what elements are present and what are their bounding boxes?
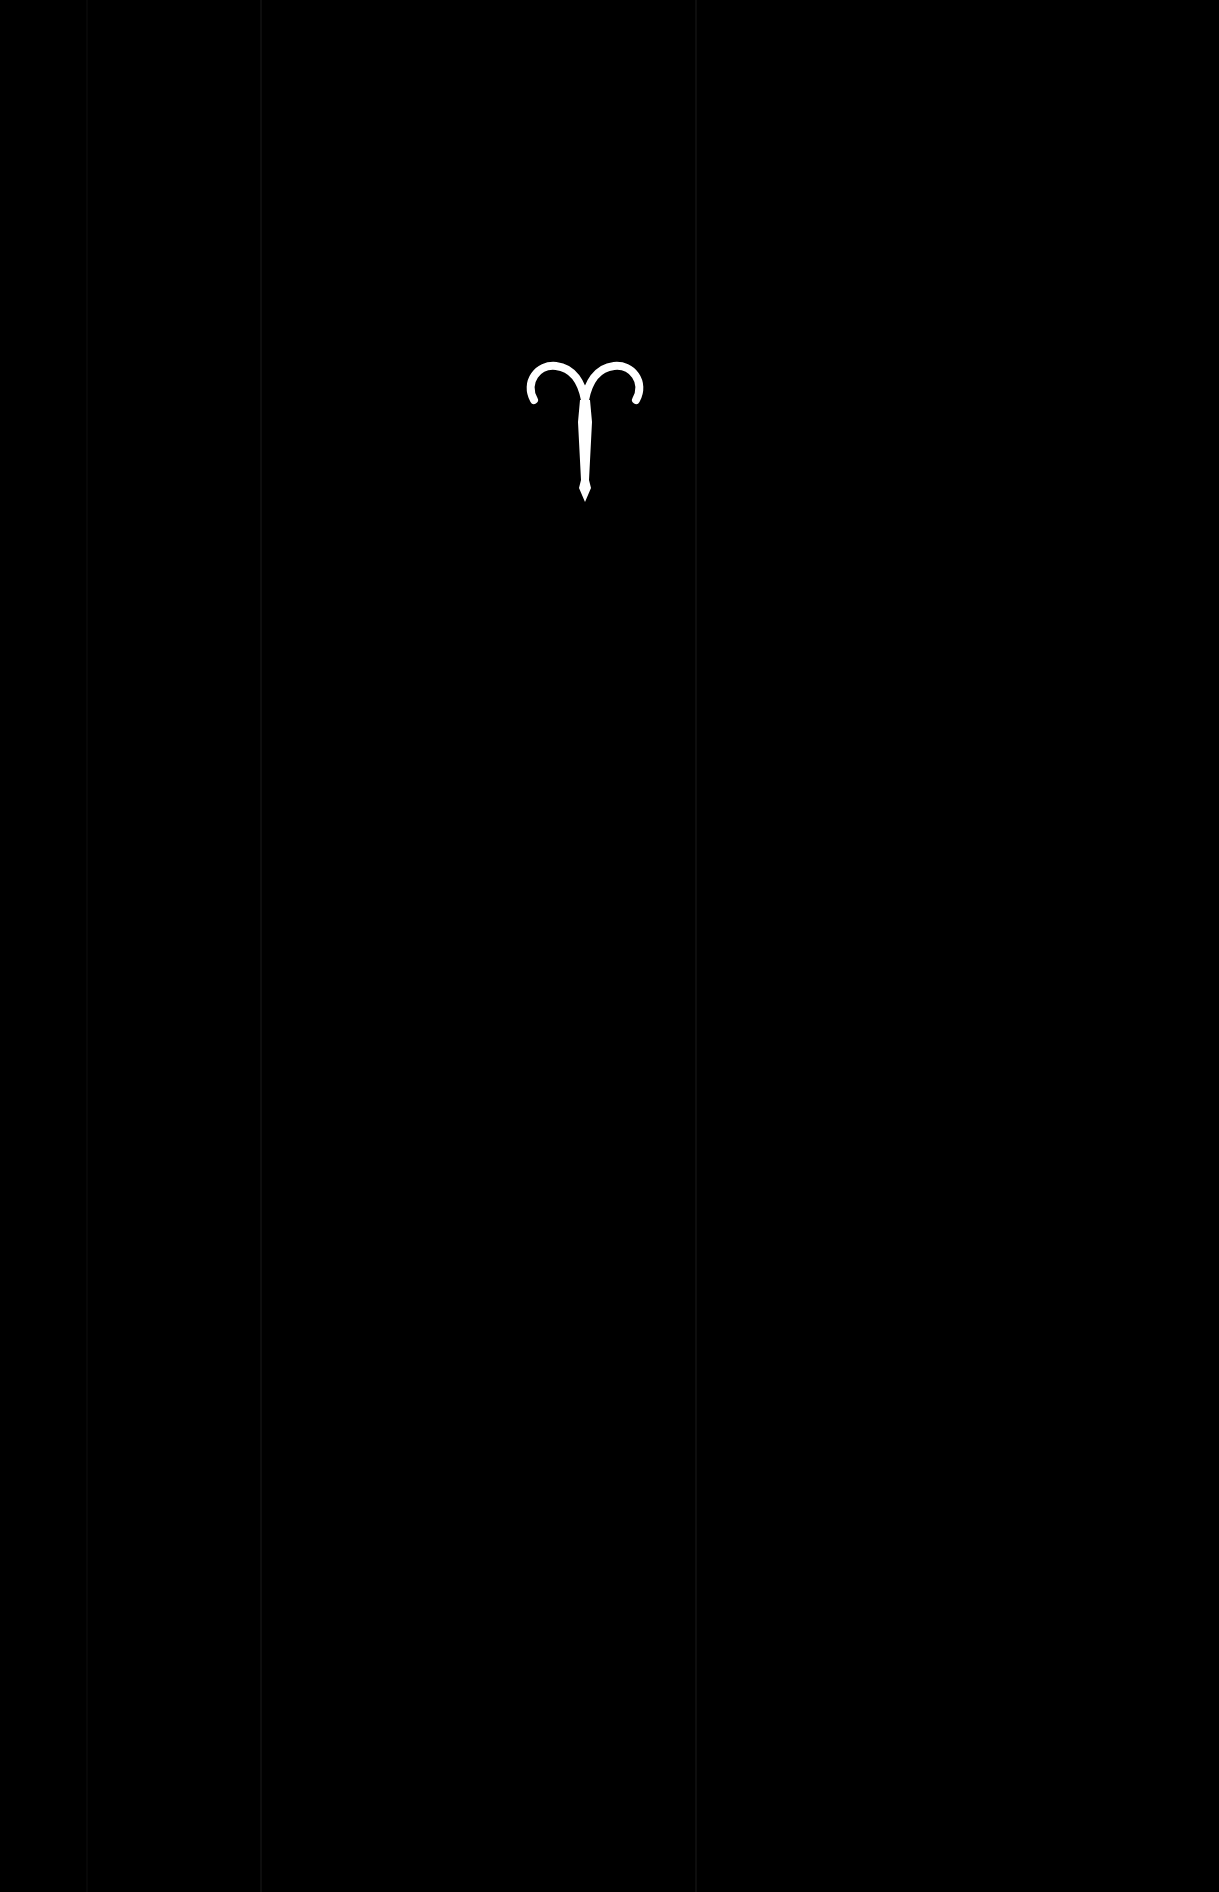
faint-vertical-line — [86, 0, 88, 1892]
faint-vertical-line — [260, 0, 262, 1892]
faint-vertical-line — [695, 0, 697, 1892]
black-background: ♈ — [0, 0, 1219, 1892]
aries-symbol-icon — [520, 360, 650, 510]
